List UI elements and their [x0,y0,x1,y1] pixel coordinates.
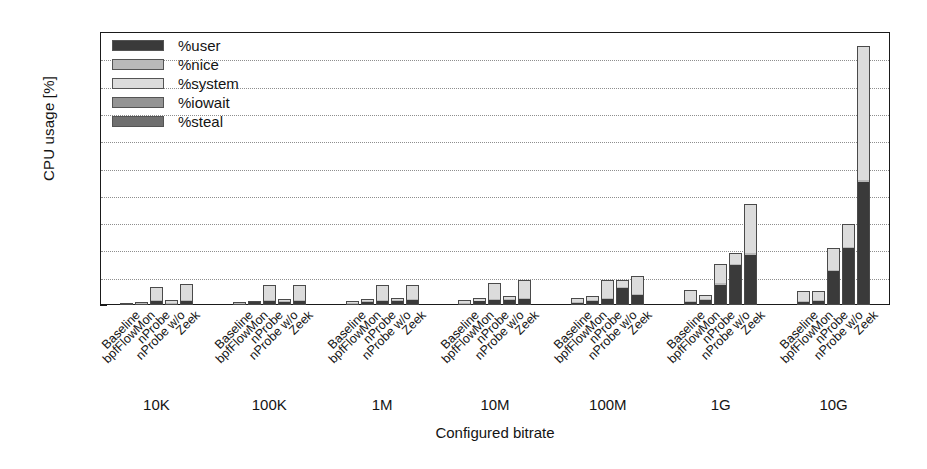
bar-group [777,32,890,305]
stacked-bar[interactable] [503,296,516,305]
bar-segment [631,276,644,293]
bar-segment [601,280,614,297]
stacked-bar[interactable] [150,287,163,305]
legend-swatch [112,78,164,89]
bar-segment [714,264,727,283]
legend-item: %iowait [112,93,322,112]
legend-label: %nice [178,56,219,73]
x-axis-title: Configured bitrate [100,424,890,441]
bar-segment [744,204,757,253]
stacked-bar[interactable] [391,298,404,306]
legend-swatch [112,40,164,51]
group-label: 100M [589,396,627,413]
bar-group [439,32,552,305]
bar-segment [488,283,501,299]
stacked-bar[interactable] [857,46,870,305]
legend-swatch [112,59,164,70]
legend-item: %user [112,36,322,55]
stacked-bar[interactable] [406,285,419,305]
bar-segment [744,255,757,306]
bar-segment [729,253,742,264]
bar-segment [293,285,306,300]
bar-group [326,32,439,305]
bar-segment [812,291,825,300]
bar-segment [263,285,276,300]
bar-segment [180,284,193,300]
stacked-bar[interactable] [842,224,855,305]
legend-label: %user [178,37,221,54]
stacked-bar[interactable] [473,298,486,305]
bar-segment [857,46,870,180]
x-axis-tick-labels: BaselinebpfFlowMonnProbenProbe w/oZeekBa… [100,305,890,385]
legend-label: %iowait [178,94,230,111]
stacked-bar[interactable] [616,280,629,305]
stacked-bar[interactable] [744,204,757,305]
bar-group [664,32,777,305]
stacked-bar[interactable] [601,280,614,305]
bar-segment [631,295,644,305]
stacked-bar[interactable] [631,276,644,305]
legend-item: %system [112,74,322,93]
stacked-bar[interactable] [684,290,697,305]
bar-segment [714,285,727,305]
group-label: 10G [819,396,847,413]
stacked-bar[interactable] [729,253,742,305]
group-label: 100K [252,396,287,413]
bar-segment [729,265,742,305]
bar-segment [842,225,855,247]
stacked-bar[interactable] [797,291,810,305]
bar-segment [857,182,870,305]
bar-segment [406,285,419,299]
stacked-bar[interactable] [293,285,306,305]
bar-group [551,32,664,305]
cpu-usage-bar-chart: CPU usage [%] 02468101214161820 %user%ni… [0,0,927,469]
bar-segment [797,291,810,300]
stacked-bar[interactable] [827,248,840,305]
group-label: 10M [480,396,509,413]
stacked-bar[interactable] [699,295,712,305]
group-label: 10K [143,396,170,413]
stacked-bar[interactable] [180,284,193,305]
bar-segment [827,248,840,270]
stacked-bar[interactable] [376,285,389,305]
group-label: 1G [711,396,731,413]
stacked-bar[interactable] [488,283,501,305]
legend-swatch [112,116,164,127]
group-label: 1M [372,396,393,413]
stacked-bar[interactable] [586,296,599,305]
bar-segment [827,271,840,305]
bar-segment [842,248,855,305]
bar-segment [518,280,531,297]
bar-segment [616,288,629,305]
legend-label: %system [178,75,239,92]
bar-segment [684,290,697,301]
legend-label: %steal [178,113,223,130]
bar-segment [376,285,389,300]
x-axis-group-labels: 10K100K1M10M100M1G10G [100,396,890,418]
stacked-bar[interactable] [571,298,584,305]
legend-item: %steal [112,112,322,131]
stacked-bar[interactable] [518,280,531,305]
bar-segment [150,287,163,300]
legend: %user%nice%system%iowait%steal [112,36,322,131]
y-axis-title: CPU usage [%] [40,9,57,249]
stacked-bar[interactable] [812,291,825,305]
legend-item: %nice [112,55,322,74]
legend-swatch [112,97,164,108]
stacked-bar[interactable] [714,264,727,305]
stacked-bar[interactable] [263,285,276,305]
